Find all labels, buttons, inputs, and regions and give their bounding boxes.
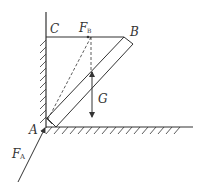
vertical-wall <box>40 12 46 128</box>
angle-mark <box>46 118 52 124</box>
label-a: A <box>28 123 38 137</box>
label-fb-sub: B <box>87 27 92 34</box>
label-b: B <box>129 25 139 39</box>
label-fa-sub: A <box>19 153 26 161</box>
force-fb-point <box>87 36 90 39</box>
horizontal-floor <box>46 127 193 134</box>
label-g: G <box>98 92 108 106</box>
statics-diagram: C B A G F B F A <box>0 0 205 196</box>
label-c: C <box>50 22 59 36</box>
inclined-rod <box>47 37 133 127</box>
